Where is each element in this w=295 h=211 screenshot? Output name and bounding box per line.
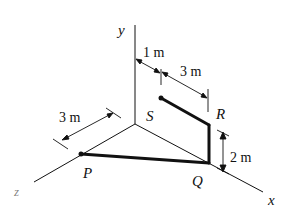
- dim-2m-label: 2 m: [230, 150, 252, 165]
- x-axis-label: x: [267, 192, 275, 208]
- ext-tick-P: [53, 139, 68, 149]
- arrow-2m-bottom: [220, 165, 226, 172]
- dim-1m-label: 1 m: [143, 45, 165, 60]
- arrow-3mz-right: [107, 113, 113, 118]
- arrow-3m-left: [162, 72, 168, 77]
- 3d-bar-diagram: y x z S R P Q 1 m 3 m 2 m 3 m: [0, 0, 295, 211]
- arrow-3m-right: [201, 93, 207, 98]
- arrow-2m-top: [220, 132, 226, 139]
- arrow-1m-left: [136, 59, 142, 64]
- dim-3m-z-label: 3 m: [59, 110, 81, 125]
- point-P-label: P: [82, 165, 92, 181]
- point-S-dot: [159, 96, 164, 101]
- dim-3m-top-label: 3 m: [180, 64, 202, 79]
- z-axis-label: z: [13, 184, 19, 199]
- point-Q-label: Q: [192, 173, 203, 189]
- segment-PQ: [81, 154, 209, 163]
- dimension-2m: [217, 130, 229, 174]
- y-axis-label: y: [116, 22, 125, 38]
- point-S-label: S: [146, 108, 154, 124]
- point-R-label: R: [215, 106, 225, 122]
- segment-RS: [161, 98, 209, 125]
- arrow-1m-right: [154, 68, 160, 73]
- point-P-dot: [79, 152, 84, 157]
- arrow-3mz-left: [62, 135, 69, 140]
